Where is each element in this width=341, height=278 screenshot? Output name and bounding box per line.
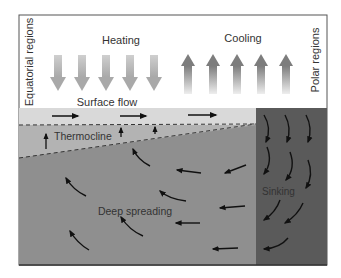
- cooling-label: Cooling: [224, 32, 261, 44]
- polar-regions-label: Polar regions: [309, 27, 321, 92]
- thermocline-label: Thermocline: [54, 130, 112, 142]
- thermohaline-circulation-diagram: Heating Cooling Surface flow Thermocline…: [0, 0, 341, 278]
- sinking-label: Sinking: [262, 186, 295, 197]
- heating-label: Heating: [102, 34, 140, 46]
- arrow-left-icon: [213, 248, 238, 249]
- surface-flow-label: Surface flow: [77, 96, 138, 108]
- equatorial-regions-label: Equatorial regions: [23, 17, 35, 106]
- deep-spreading-label: Deep spreading: [98, 205, 172, 217]
